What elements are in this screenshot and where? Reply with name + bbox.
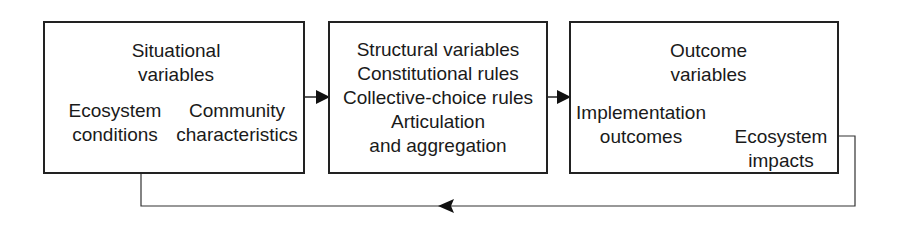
structural-line: Collective-choice rules xyxy=(330,86,546,109)
structural-line: and aggregation xyxy=(330,134,546,157)
box-title-line: Situational xyxy=(45,39,307,62)
outcome-variables-box: Outcome variables Implementation outcome… xyxy=(569,21,839,174)
implementation-outcomes-label: outcomes xyxy=(571,125,711,148)
ecosystem-impacts-label: Ecosystem xyxy=(726,125,836,148)
community-characteristics-label: Community xyxy=(167,99,307,122)
community-characteristics-label: characteristics xyxy=(167,123,307,146)
box-title-line: Outcome xyxy=(621,39,796,62)
ecosystem-conditions-label: conditions xyxy=(55,123,175,146)
structural-line: Structural variables xyxy=(330,38,546,61)
situational-variables-box: Situational variables Ecosystem conditio… xyxy=(43,21,305,174)
ecosystem-impacts-label: impacts xyxy=(726,149,836,172)
ecosystem-conditions-label: Ecosystem xyxy=(55,99,175,122)
box-title-line: variables xyxy=(45,63,307,86)
implementation-outcomes-label: Implementation xyxy=(571,101,711,124)
box-title-line: variables xyxy=(621,63,796,86)
structural-variables-box: Structural variables Constitutional rule… xyxy=(328,21,548,174)
structural-line: Articulation xyxy=(330,110,546,133)
structural-line: Constitutional rules xyxy=(330,62,546,85)
